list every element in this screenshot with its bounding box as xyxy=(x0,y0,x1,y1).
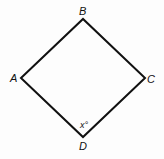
angle-label-x: x° xyxy=(79,120,89,130)
vertex-label-d: D xyxy=(79,140,87,152)
quadrilateral-figure: B A C D x° xyxy=(0,0,164,159)
vertex-label-c: C xyxy=(147,73,155,85)
vertex-label-b: B xyxy=(79,5,86,17)
vertex-label-a: A xyxy=(9,72,17,84)
diagram-canvas: B A C D x° xyxy=(0,0,164,159)
